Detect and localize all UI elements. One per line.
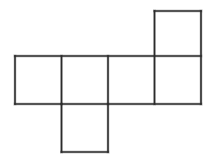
cube-net-drawing xyxy=(0,0,216,167)
cube-net-figure: Line drawing of a six-square net (unfold… xyxy=(0,0,216,167)
